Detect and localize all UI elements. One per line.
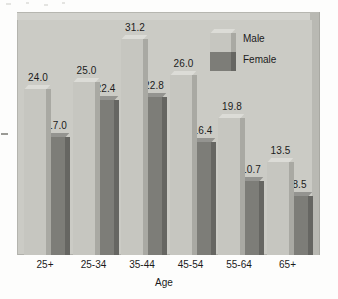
bar-front-face [170,75,192,255]
bar-male-55-64: 19.8 [218,118,240,255]
bar-front-face [121,39,143,255]
legend-swatch-male [210,33,231,52]
left-edge-tick [1,133,8,135]
bar-front-face [24,89,46,255]
bar-value-label: 25.0 [71,65,103,76]
bar-male-45-54: 26.0 [170,75,192,255]
bar-side-face [46,89,51,255]
bar-side-face [308,196,313,255]
bar-value-label: 19.8 [216,101,248,112]
bar-value-label: 13.5 [265,145,297,156]
bar-side-face [162,97,167,255]
chart-legend: Male Female [210,28,302,78]
x-axis-tick-labels: 25+25-3435-4445-5455-6465+ [17,259,320,273]
bar-front-face [73,82,95,255]
bar-side-face [192,75,197,255]
bar-chart-figure: 24.017.025.022.431.222.826.016.419.810.7… [0,0,338,299]
bar-male-35-44: 31.2 [121,39,143,255]
x-tick-label: 65+ [260,259,316,270]
bar-side-face [65,137,70,255]
legend-swatch-icon [210,33,231,71]
bar-side-face [95,82,100,255]
bar-male-65plus: 13.5 [267,162,289,255]
scan-artifact [26,2,29,4]
legend-label-female: Female [243,54,276,65]
plot-area-3d-box: 24.017.025.022.431.222.826.016.419.810.7… [17,12,320,255]
bar-value-label: 24.0 [22,72,54,83]
scan-artifact [62,2,65,4]
x-axis-title: Age [17,277,311,288]
bar-side-face [143,39,148,255]
legend-swatch-female-side [231,52,236,71]
legend-label-male: Male [243,33,265,44]
legend-swatch-female [210,52,231,71]
scan-artifact [44,4,48,6]
scan-artifact [6,3,11,5]
legend-swatch-male-side [231,33,236,52]
bar-side-face [289,162,294,255]
bar-front-face [218,118,240,255]
bar-male-25plus: 24.0 [24,89,46,255]
bar-side-face [114,100,119,255]
bar-value-label: 26.0 [168,58,200,69]
bar-side-face [240,118,245,255]
bar-side-face [211,142,216,255]
bar-front-face [267,162,289,255]
bar-value-label: 31.2 [119,22,151,33]
bar-side-face [259,181,264,255]
bar-male-25-34: 25.0 [73,82,95,255]
